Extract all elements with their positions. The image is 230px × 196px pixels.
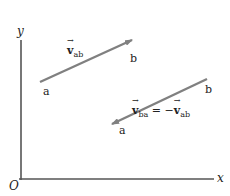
vector-v-symbol: v [67, 45, 73, 56]
subscript-ab-rhs: ab [180, 110, 190, 119]
vector-v-symbol: v [132, 105, 138, 116]
point-b-upper: b [130, 53, 137, 64]
subscript-ba: ba [138, 110, 148, 119]
vector-diagram [0, 0, 230, 196]
point-a-lower: a [119, 125, 126, 136]
origin-label: O [9, 180, 19, 192]
y-axis-label: y [17, 25, 24, 37]
equals-minus: = − [148, 104, 173, 117]
point-a-upper: a [43, 86, 50, 97]
arrow-v-ab [40, 40, 132, 82]
vector-v-ba-label: vba = −vab [132, 105, 190, 119]
vector-v-ab-label: vab [67, 45, 83, 59]
x-axis-label: x [217, 172, 224, 184]
subscript-ab: ab [73, 50, 83, 59]
point-b-lower: b [205, 84, 212, 95]
vector-v-symbol-rhs: v [174, 105, 180, 116]
